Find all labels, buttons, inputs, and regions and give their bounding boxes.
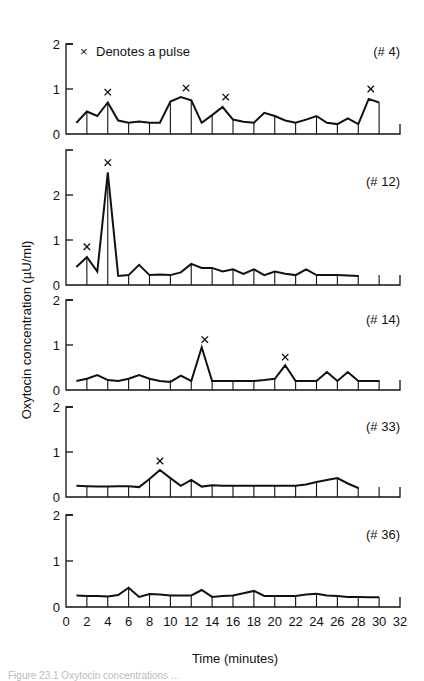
- y-tick-label: 2: [53, 508, 60, 523]
- x-tick-label: 12: [184, 614, 198, 629]
- y-tick-label: 1: [53, 82, 60, 97]
- panel-12: 012(# 12): [53, 150, 400, 293]
- pulse-marker-icon: [222, 94, 228, 100]
- figure-caption: Figure 23.1 Oxytocin concentrations ...: [8, 670, 179, 681]
- panels: 012(# 4)012(# 12)012(# 14)012(# 33)012(#…: [53, 37, 400, 615]
- x-axis-title: Time (minutes): [192, 651, 278, 666]
- axis-frame: [66, 515, 400, 607]
- x-tick-labels: 02468101214161820222426283032: [62, 614, 407, 629]
- series-line: [76, 97, 379, 124]
- y-tick-label: 0: [53, 490, 60, 505]
- axis-frame: [66, 300, 400, 390]
- x-tick-label: 18: [247, 614, 261, 629]
- y-tick-label: 1: [53, 338, 60, 353]
- x-tick-label: 28: [351, 614, 365, 629]
- x-tick-label: 14: [205, 614, 219, 629]
- series-line: [76, 347, 379, 382]
- y-tick-label: 0: [53, 383, 60, 398]
- pulse-marker-icon: [202, 336, 208, 342]
- pulse-marker-icon: [157, 458, 163, 464]
- panel-id-label: (# 14): [366, 312, 400, 327]
- x-tick-label: 26: [330, 614, 344, 629]
- pulse-marker-icon: [368, 86, 374, 92]
- pulse-marker-icon: [84, 244, 90, 250]
- legend-label: Denotes a pulse: [96, 44, 190, 59]
- x-tick-label: 0: [62, 614, 69, 629]
- x-tick-label: 16: [226, 614, 240, 629]
- x-tick-label: 30: [372, 614, 386, 629]
- pulse-marker-icon: [282, 354, 288, 360]
- panel-14: 012(# 14): [53, 293, 400, 398]
- y-tick-label: 1: [53, 233, 60, 248]
- panel-id-label: (# 4): [373, 44, 400, 59]
- x-tick-label: 32: [393, 614, 407, 629]
- x-tick-label: 20: [268, 614, 282, 629]
- panel-33: 012(# 33): [53, 400, 400, 505]
- panel-id-label: (# 33): [366, 419, 400, 434]
- y-axis-title: Oxytocin concentration (µU/ml): [19, 241, 34, 420]
- x-tick-label: 24: [309, 614, 323, 629]
- pulse-marker-icon: [105, 159, 111, 165]
- series-line: [76, 173, 358, 277]
- x-tick-label: 6: [125, 614, 132, 629]
- pulse-marker-icon: [183, 85, 189, 91]
- x-tick-label: 10: [163, 614, 177, 629]
- x-tick-label: 2: [83, 614, 90, 629]
- series-line: [76, 588, 379, 598]
- panel-id-label: (# 36): [366, 527, 400, 542]
- y-tick-label: 2: [53, 37, 60, 52]
- x-tick-label: 4: [104, 614, 111, 629]
- y-tick-label: 2: [53, 400, 60, 415]
- oxytocin-pulse-chart: 012(# 4)012(# 12)012(# 14)012(# 33)012(#…: [0, 0, 424, 681]
- y-tick-label: 0: [53, 600, 60, 615]
- x-tick-label: 8: [146, 614, 153, 629]
- y-tick-label: 0: [53, 127, 60, 142]
- y-tick-label: 2: [53, 293, 60, 308]
- y-tick-label: 0: [53, 278, 60, 293]
- pulse-marker-icon: [105, 89, 111, 95]
- x-tick-label: 22: [288, 614, 302, 629]
- y-tick-label: 1: [53, 554, 60, 569]
- panel-id-label: (# 12): [366, 174, 400, 189]
- y-tick-label: 2: [53, 188, 60, 203]
- y-tick-label: 1: [53, 445, 60, 460]
- pulse-marker-icon: ×: [80, 44, 88, 59]
- panel-36: 012(# 36): [53, 508, 400, 615]
